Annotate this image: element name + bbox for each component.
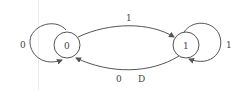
edge-s1-s0 [76, 56, 179, 70]
edge-label-s1-s0: 0 [116, 74, 122, 84]
edge-label-s0-self: 0 [20, 40, 26, 50]
state-0-label: 0 [64, 41, 70, 51]
edge-label-s0-s1: 1 [126, 13, 132, 23]
state-diagram: 0 0 1 0 D 1 1 [0, 0, 238, 90]
edge-label-s1-self: 1 [226, 40, 232, 50]
edge-output-s1-s0: D [138, 74, 145, 84]
edge-s0-s1 [78, 26, 174, 37]
state-1-label: 1 [183, 41, 189, 51]
